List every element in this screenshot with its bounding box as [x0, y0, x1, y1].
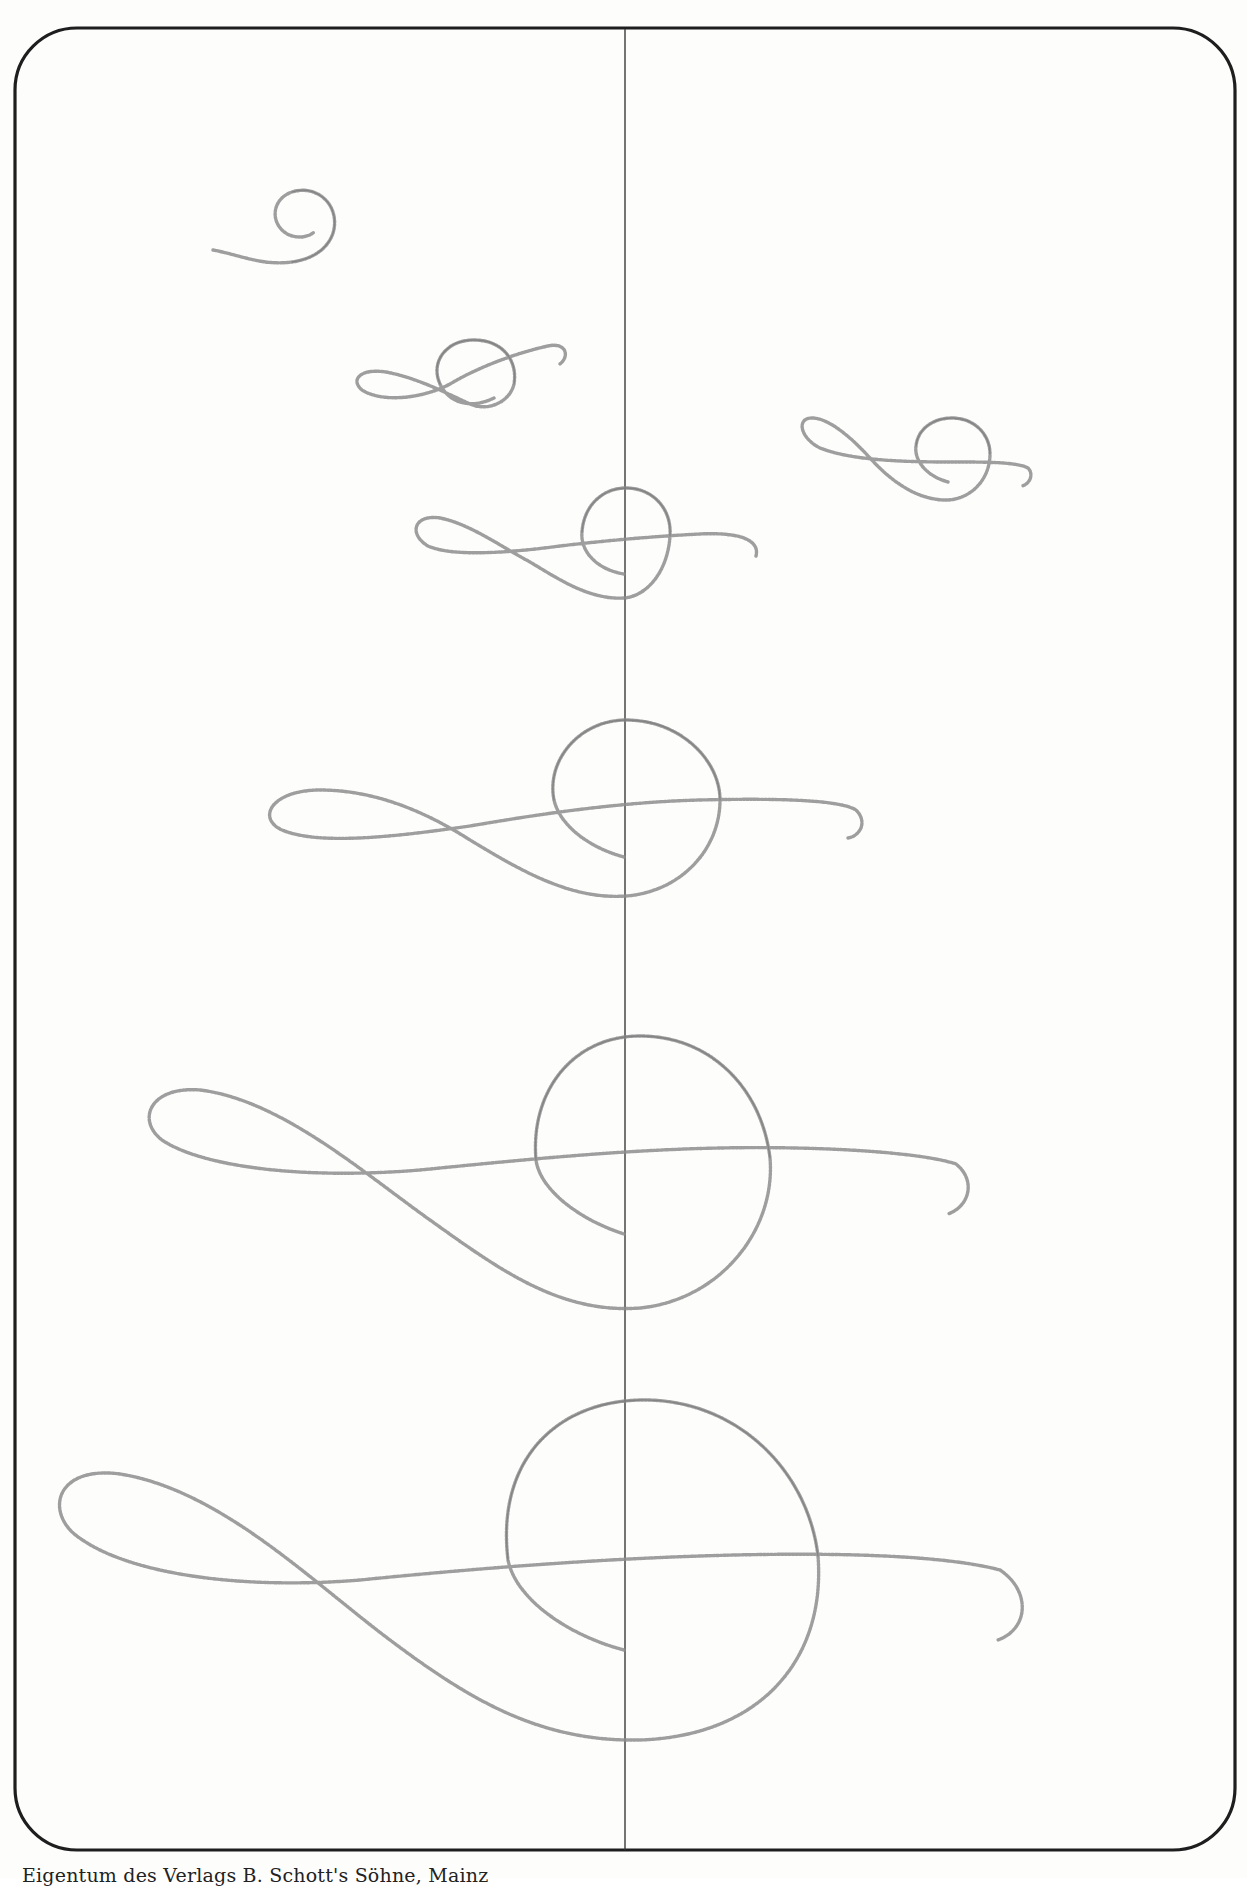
copyright-caption: Eigentum des Verlags B. Schott's Söhne, … — [22, 1864, 488, 1886]
clef-stage-4 — [270, 720, 862, 896]
clef-stage-5 — [149, 1036, 968, 1309]
clef-stage-6 — [60, 1400, 1023, 1740]
clef-stage-7-right — [802, 418, 1031, 500]
clef-stage-2 — [357, 340, 565, 407]
clef-stage-3 — [416, 488, 756, 598]
clef-stage-1-spiral — [213, 190, 335, 263]
